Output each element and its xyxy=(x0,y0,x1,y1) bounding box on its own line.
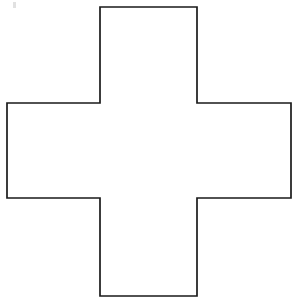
figure-canvas xyxy=(0,0,297,304)
cross-figure-svg xyxy=(0,0,297,304)
scan-speck-artifact xyxy=(13,2,16,8)
